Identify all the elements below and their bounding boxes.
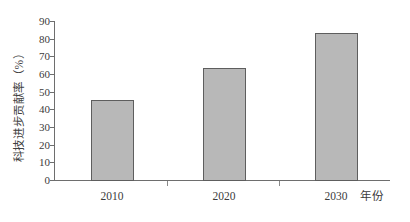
y-axis-tick xyxy=(50,74,55,75)
y-axis-tick xyxy=(50,92,55,93)
y-tick-label: 30 xyxy=(26,122,50,133)
x-axis-tick xyxy=(167,181,168,186)
y-axis-tick xyxy=(50,109,55,110)
x-tick-label-2030: 2030 xyxy=(306,190,366,203)
y-axis-tick xyxy=(50,39,55,40)
y-tick-label: 80 xyxy=(26,34,50,45)
y-axis-tick xyxy=(50,127,55,128)
y-axis-tick-labels: 90 80 70 60 50 40 30 20 10 0 xyxy=(26,0,50,222)
y-axis-tick xyxy=(50,180,55,181)
bar-2010 xyxy=(91,100,134,181)
y-tick-label: 70 xyxy=(26,51,50,62)
x-axis-tick xyxy=(279,181,280,186)
y-axis-tick xyxy=(50,56,55,57)
y-axis-title-text: 科技进步贡献率（%） xyxy=(10,48,26,163)
y-tick-label: 40 xyxy=(26,104,50,115)
y-axis-title: 科技进步贡献率（%） xyxy=(8,20,28,190)
y-tick-label: 20 xyxy=(26,140,50,151)
bar-2030 xyxy=(315,33,358,181)
bar-chart: 科技进步贡献率（%） 90 80 70 60 50 40 30 20 10 0 … xyxy=(0,0,410,222)
y-axis-tick xyxy=(50,145,55,146)
y-tick-label: 10 xyxy=(26,157,50,168)
y-tick-label: 50 xyxy=(26,87,50,98)
y-tick-label: 0 xyxy=(26,175,50,186)
y-axis-line xyxy=(54,21,55,181)
y-axis-tick xyxy=(50,21,55,22)
y-tick-label: 60 xyxy=(26,69,50,80)
bar-2020 xyxy=(203,68,246,181)
x-axis-title: 年份 xyxy=(360,190,383,203)
y-tick-label: 90 xyxy=(26,16,50,27)
x-tick-label-2010: 2010 xyxy=(82,190,142,203)
y-axis-tick xyxy=(50,162,55,163)
x-tick-label-2020: 2020 xyxy=(194,190,254,203)
